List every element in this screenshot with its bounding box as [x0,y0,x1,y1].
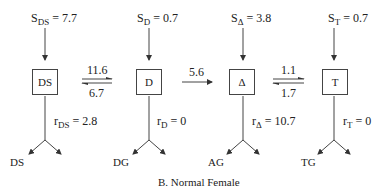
compartment-delta: Δ [229,69,255,95]
source-label-d: SD = 0.7 [137,12,178,24]
rate-d-to-delta: 5.6 [189,66,204,78]
removal-label-t: rT = 0 [343,115,371,127]
figure-caption: B. Normal Female [158,176,240,188]
compartment-d: D [136,69,162,95]
source-label-ds: SDS = 7.7 [31,12,77,24]
rate-t-to-delta: 1.7 [281,87,296,99]
rate-delta-to-t: 1.1 [281,64,296,76]
removal-label-delta: rΔ = 10.7 [252,115,296,127]
source-label-t: ST = 0.7 [328,12,368,24]
output-ds: DS [10,157,24,168]
removal-label-d: rD = 0 [157,115,186,127]
rate-d-to-ds: 6.7 [89,87,104,99]
removal-label-ds: rDS = 2.8 [54,115,97,127]
compartment-t: T [322,69,348,95]
rate-ds-to-d: 11.6 [87,64,108,76]
output-ag: AG [208,157,224,168]
source-label-delta: SΔ = 3.8 [231,12,271,24]
output-dg: DG [113,157,129,168]
output-tg: TG [301,157,316,168]
compartment-ds: DS [32,69,58,95]
